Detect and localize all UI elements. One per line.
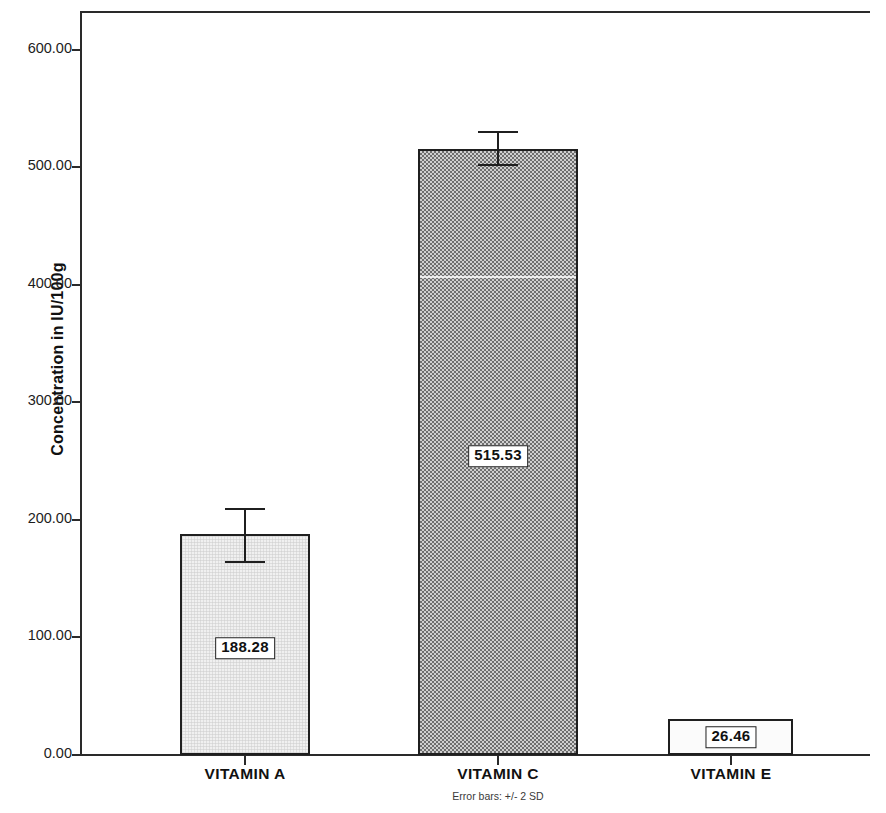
- y-tick-label: 200.00: [28, 510, 72, 526]
- y-tick-label: 400.00: [28, 275, 72, 291]
- y-tick-mark: [72, 284, 81, 286]
- y-tick-mark: [72, 401, 81, 403]
- y-tick-label: 500.00: [28, 157, 72, 173]
- error-bar-stem: [244, 508, 246, 561]
- error-bar-vitamin-a: [180, 508, 310, 563]
- value-label-vitamin-c: 515.53: [468, 445, 528, 467]
- y-tick-label: 0.00: [44, 745, 72, 761]
- y-tick-label: 100.00: [28, 627, 72, 643]
- x-label-vitamin-a: VITAMIN A: [204, 765, 285, 783]
- error-bar-stem: [497, 131, 499, 164]
- bar-chart: Concentration in IU/100g 600.00 500.00 4…: [0, 0, 886, 813]
- y-tick-label: 600.00: [28, 40, 72, 56]
- x-tick-mark-vitamin-a: [244, 756, 246, 765]
- error-bar-vitamin-c: [418, 131, 578, 166]
- x-tick-mark-vitamin-e: [730, 756, 732, 765]
- x-tick-mark-vitamin-c: [497, 756, 499, 765]
- y-axis-title: Concentration in IU/100g: [49, 209, 67, 509]
- error-bar-footnote: Error bars: +/- 2 SD: [452, 790, 543, 802]
- y-tick-mark: [72, 166, 81, 168]
- value-label-vitamin-a: 188.28: [215, 637, 275, 659]
- value-label-vitamin-e: 26.46: [705, 726, 756, 748]
- x-label-vitamin-e: VITAMIN E: [691, 765, 772, 783]
- y-tick-label: 300.00: [28, 392, 72, 408]
- error-bar-lower-cap: [478, 164, 518, 166]
- x-label-vitamin-c: VITAMIN C: [457, 765, 539, 783]
- scan-line-artifact: [420, 276, 576, 278]
- error-bar-lower-cap: [225, 561, 265, 563]
- y-tick-mark: [72, 519, 81, 521]
- y-tick-mark: [72, 636, 81, 638]
- y-tick-mark: [72, 49, 81, 51]
- y-tick-mark: [72, 754, 81, 756]
